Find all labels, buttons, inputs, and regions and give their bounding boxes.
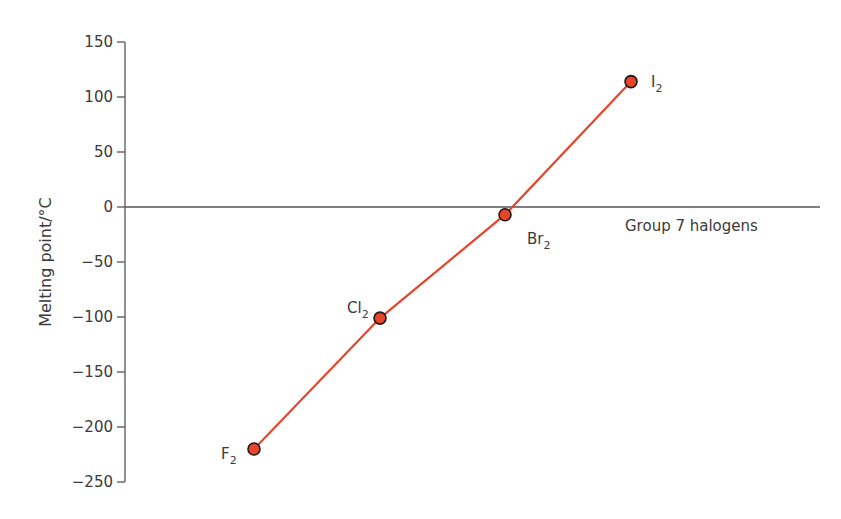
- data-series: [248, 76, 637, 455]
- y-tick-label: 50: [94, 143, 113, 161]
- y-tick-label: −150: [72, 363, 113, 381]
- y-tick-label: −200: [72, 418, 113, 436]
- y-tick-label: 150: [84, 33, 113, 51]
- y-tick-label: −250: [72, 473, 113, 491]
- melting-point-chart: 150100500−50−100−150−200−250 Melting poi…: [0, 0, 841, 519]
- point-label-br2: Br2: [527, 230, 550, 252]
- point-labels: F2Cl2Br2I2: [221, 73, 662, 467]
- y-axis: 150100500−50−100−150−200−250: [72, 33, 125, 491]
- data-point-marker: [374, 312, 386, 324]
- y-tick-label: −50: [81, 253, 113, 271]
- data-point-marker: [248, 443, 260, 455]
- point-label-i2: I2: [651, 73, 662, 95]
- y-tick-label: −100: [72, 308, 113, 326]
- y-tick-label: 0: [103, 198, 113, 216]
- y-axis-title: Melting point/°C: [36, 197, 55, 327]
- y-tick-label: 100: [84, 88, 113, 106]
- data-point-marker: [499, 209, 511, 221]
- point-label-cl2: Cl2: [347, 299, 369, 321]
- data-point-marker: [625, 76, 637, 88]
- series-line: [254, 82, 631, 449]
- x-axis-title: Group 7 halogens: [625, 217, 758, 235]
- point-label-f2: F2: [221, 445, 237, 467]
